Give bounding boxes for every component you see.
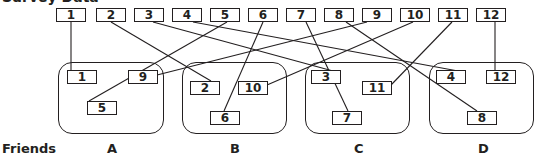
survey-box-9: 9 [362, 8, 392, 22]
group-label-a: A [107, 141, 117, 156]
survey-box-5: 5 [210, 8, 240, 22]
member-box-c-11: 11 [362, 81, 392, 95]
survey-box-1: 1 [56, 8, 86, 22]
member-box-d-8: 8 [467, 111, 497, 125]
survey-box-4: 4 [172, 8, 202, 22]
member-box-c-3: 3 [311, 70, 341, 84]
survey-box-10: 10 [400, 8, 430, 22]
survey-box-3: 3 [134, 8, 164, 22]
group-label-b: B [230, 141, 240, 156]
group-label-d: D [478, 141, 489, 156]
group-label-c: C [354, 141, 364, 156]
friends-row-label: Friends [2, 141, 56, 156]
survey-box-12: 12 [476, 8, 506, 22]
survey-box-8: 8 [324, 8, 354, 22]
survey-box-7: 7 [286, 8, 316, 22]
member-box-d-12: 12 [486, 70, 516, 84]
member-box-a-9: 9 [128, 70, 158, 84]
member-box-a-1: 1 [67, 70, 97, 84]
survey-box-11: 11 [438, 8, 468, 22]
member-box-b-2: 2 [190, 81, 220, 95]
member-box-c-7: 7 [332, 111, 362, 125]
member-box-a-5: 5 [87, 101, 117, 115]
survey-box-6: 6 [248, 8, 278, 22]
survey-box-2: 2 [96, 8, 126, 22]
member-box-d-4: 4 [436, 70, 466, 84]
member-box-b-10: 10 [238, 81, 268, 95]
friends-survey-diagram: Survey Data 123456789101112 195210631174… [0, 0, 534, 159]
member-box-b-6: 6 [210, 111, 240, 125]
